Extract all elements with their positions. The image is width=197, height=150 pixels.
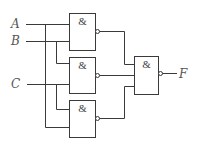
- nand-gate-3: &: [70, 101, 100, 138]
- inverter-bubble-icon: [96, 30, 100, 34]
- nand-gate-2: &: [70, 58, 100, 94]
- and-symbol: &: [78, 15, 87, 27]
- logic-circuit-diagram: A B C & & & &: [0, 0, 197, 150]
- inverter-bubble-icon: [159, 72, 163, 76]
- and-symbol: &: [78, 59, 87, 71]
- inverter-bubble-icon: [96, 74, 100, 78]
- wire-g3-to-g4: [100, 87, 135, 119]
- intermediate-wires: [100, 32, 135, 119]
- input-label-c: C: [11, 77, 20, 91]
- wire-b-to-g2: [57, 42, 70, 64]
- wire-a-to-g3: [46, 25, 70, 128]
- inverter-bubble-icon: [96, 117, 100, 121]
- output-label-f: F: [178, 67, 188, 81]
- and-symbol: &: [142, 58, 151, 70]
- nand-gate-1: &: [70, 14, 100, 51]
- wire-g1-to-g4: [100, 32, 135, 65]
- and-symbol: &: [78, 102, 87, 114]
- input-label-b: B: [10, 34, 20, 48]
- input-label-a: A: [10, 17, 20, 31]
- input-wires: [26, 25, 69, 128]
- wire-c-to-g3: [57, 85, 70, 110]
- nand-gate-output: &: [135, 57, 178, 95]
